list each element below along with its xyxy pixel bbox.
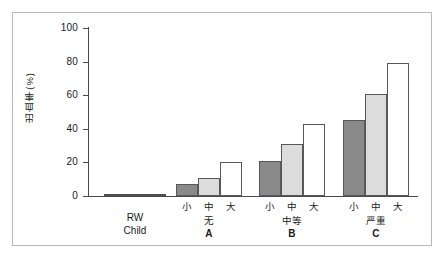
bar-tick-c-small: 小: [343, 201, 365, 212]
group-caption-rw-child: RW Child: [95, 211, 175, 237]
bar-b-small: [259, 161, 281, 196]
y-axis-line: [88, 27, 89, 197]
bar-a-large: [220, 162, 242, 196]
y-tick-label-20: 20: [38, 157, 78, 167]
bar-b-medium: [281, 144, 303, 196]
x-axis-line: [88, 196, 418, 197]
group-caption-c: 严重 C: [347, 214, 405, 240]
rw-child-line2: Child: [95, 224, 175, 237]
y-tick-mark-60: [83, 95, 88, 96]
bar-tick-b-medium: 中: [281, 201, 303, 212]
y-tick-mark-0: [83, 196, 88, 197]
bar-tick-a-medium: 中: [198, 201, 220, 212]
y-tick-label-80: 80: [38, 57, 78, 67]
y-tick-mark-80: [83, 62, 88, 63]
group-caption-b: 中等 B: [263, 214, 321, 240]
y-tick-label-40: 40: [38, 124, 78, 134]
y-tick-mark-40: [83, 129, 88, 130]
group-c-code: C: [347, 227, 405, 240]
bar-tick-a-large: 大: [220, 201, 242, 212]
group-b-cn-label: 中等: [263, 214, 321, 227]
bar-a-medium: [198, 178, 220, 196]
bar-c-medium: [365, 94, 387, 196]
y-tick-mark-20: [83, 162, 88, 163]
group-b-code: B: [263, 227, 321, 240]
bar-b-large: [303, 124, 325, 196]
bar-tick-b-large: 大: [303, 201, 325, 212]
y-tick-label-100: 100: [38, 23, 78, 33]
bar-tick-a-small: 小: [176, 201, 198, 212]
group-caption-a: 无 A: [180, 214, 238, 240]
group-a-cn-label: 无: [180, 214, 238, 227]
bar-rw-child: [104, 194, 166, 196]
bar-c-small: [343, 120, 365, 196]
rw-child-line1: RW: [95, 211, 175, 224]
y-tick-label-0: 0: [38, 191, 78, 201]
bar-a-small: [176, 184, 198, 196]
bar-tick-c-medium: 中: [365, 201, 387, 212]
y-tick-mark-100: [83, 28, 88, 29]
group-a-code: A: [180, 227, 238, 240]
y-tick-label-60: 60: [38, 90, 78, 100]
plot-area: 出血率(%) 100 80 60 40 20 0 RW Child 小 中 大 …: [0, 0, 446, 260]
bar-c-large: [387, 63, 409, 196]
chart-figure: 出血率(%) 100 80 60 40 20 0 RW Child 小 中 大 …: [0, 0, 446, 260]
bar-tick-c-large: 大: [387, 201, 409, 212]
group-c-cn-label: 严重: [347, 214, 405, 227]
bar-tick-b-small: 小: [259, 201, 281, 212]
